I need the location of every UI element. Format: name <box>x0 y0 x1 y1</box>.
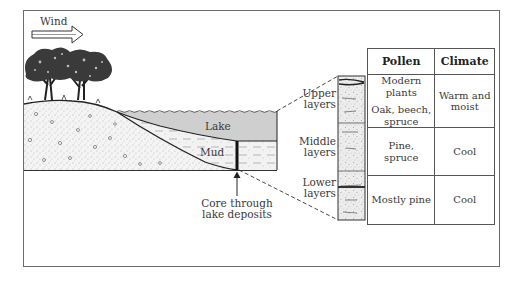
trees-icon <box>25 47 112 103</box>
cell-climate: Cool <box>435 176 495 225</box>
table-row: Mostly pine Cool <box>368 176 495 225</box>
pollen-climate-table: Pollen Climate Modern plants Oak, beech,… <box>367 48 495 225</box>
wind-label: Wind <box>40 16 67 27</box>
cell-climate: Cool <box>435 128 495 176</box>
lower-layers-label: Lower layers <box>294 177 336 199</box>
header-pollen: Pollen <box>368 49 435 75</box>
cell-climate: Warm and moist <box>435 75 495 128</box>
mud-label: Mud <box>200 147 224 158</box>
core-sample-marker <box>236 141 239 171</box>
cell-pollen: Modern plants Oak, beech, spruce <box>368 75 435 128</box>
header-climate: Climate <box>435 49 495 75</box>
up-arrow-icon <box>234 172 241 197</box>
core-column <box>338 76 365 220</box>
core-caption: Core through lake deposits <box>197 198 277 220</box>
table-row: Modern plants Oak, beech, spruce Warm an… <box>368 75 495 128</box>
table-header-row: Pollen Climate <box>368 49 495 75</box>
upper-layers-label: Upper layers <box>294 88 336 110</box>
middle-layers-label: Middle layers <box>294 136 336 158</box>
cell-pollen: Mostly pine <box>368 176 435 225</box>
cell-pollen: Pine, spruce <box>368 128 435 176</box>
lake-label: Lake <box>205 121 231 132</box>
table-row: Pine, spruce Cool <box>368 128 495 176</box>
wind-arrow-icon <box>32 26 83 43</box>
